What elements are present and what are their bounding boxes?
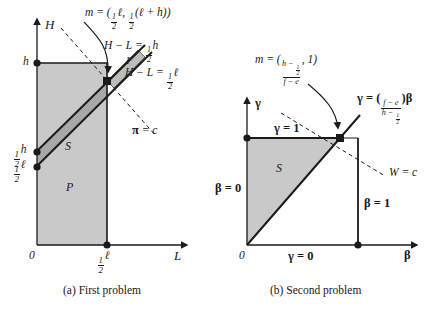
frac-vertex-b: h − 12f − e <box>281 60 301 86</box>
frac-ray-b: f − eh − 12 <box>381 99 401 125</box>
caption-panel-a: (a) First problem <box>63 285 141 297</box>
pointer-arrow-to-vertex-b <box>308 84 338 128</box>
axis-label-beta: β <box>404 249 411 262</box>
frac-ray-b-den: h − 12 <box>381 108 401 126</box>
label-beta-equals-one: β = 1 <box>364 197 390 210</box>
tick-label-half-l-x: 12ℓ <box>97 250 109 275</box>
tick-label-origin-a: 0 <box>29 250 35 262</box>
vertex-m-marker-b <box>336 134 344 142</box>
label-isoprofit-pi-equals-c: π = c <box>132 124 157 137</box>
frac-half-l-xtick: 12 <box>98 256 105 275</box>
dot-h-on-axis <box>33 59 40 66</box>
tick-label-h: h <box>23 56 29 68</box>
frac-half-l-tick: 12 <box>14 165 21 184</box>
gamma-glyph-ray: γ = ( <box>357 91 380 105</box>
dot-beta-one-on-axis <box>354 241 361 248</box>
axis-label-gamma: γ <box>255 97 261 110</box>
figure-artwork <box>0 0 438 313</box>
label-gamma-equals-one: γ = 1 <box>274 122 299 135</box>
dot-half-l-on-axis <box>33 163 40 170</box>
vertex-m-marker-a <box>103 77 111 85</box>
label-isowelfare-w-equals-c: W = c <box>389 167 417 179</box>
frac-half-l-a: 12 <box>111 13 117 30</box>
region-label-p-a: P <box>66 181 73 193</box>
region-label-i-a: I <box>126 56 130 67</box>
tick-label-half-l: 12ℓ <box>13 159 25 184</box>
label-line-h-minus-l-half-l: H − L = 12ℓ <box>125 67 178 91</box>
label-beta-equals-zero: β = 0 <box>215 182 241 195</box>
axis-label-h: H <box>45 18 54 31</box>
pi-glyph: π <box>132 123 139 137</box>
label-ray-gamma-of-beta: γ = (f − eh − 12)β <box>357 92 412 125</box>
frac-half-lh-a: 12 <box>129 13 135 30</box>
figure-two-problems: m = (12ℓ, 12(ℓ + h)) H − L = 12h H − L =… <box>0 0 438 313</box>
vertex-label-b: m = (h − 12f − e, 1) <box>255 54 317 86</box>
region-label-s-a: S <box>65 140 71 152</box>
tick-label-origin-b: 0 <box>239 250 245 262</box>
dot-half-h-on-axis <box>33 148 40 155</box>
vertex-label-a: m = (12ℓ, 12(ℓ + h)) <box>85 7 171 31</box>
frac-one-half-inner-ray: 12 <box>396 113 400 126</box>
dot-half-l-on-x-axis <box>103 241 110 248</box>
frac-one-half-inner-b: 12 <box>296 65 300 78</box>
axis-label-l: L <box>174 249 181 262</box>
ray-rhs-glyph: )β <box>402 91 413 105</box>
label-gamma-equals-zero: γ = 0 <box>288 250 313 263</box>
label-line-h-minus-l-half-h: H − L = 12h <box>104 40 158 64</box>
caption-panel-b: (b) Second problem <box>270 285 361 297</box>
dot-gamma-one-on-axis <box>243 134 250 141</box>
frac-vertex-b-num: h − 12 <box>281 60 301 77</box>
region-label-s-b: S <box>276 162 282 174</box>
